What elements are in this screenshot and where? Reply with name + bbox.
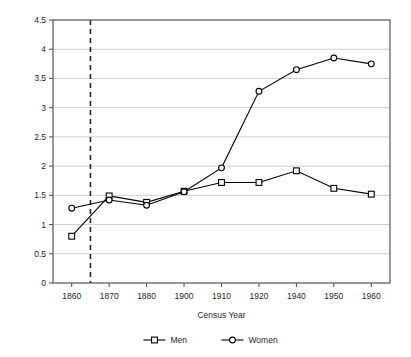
legend-marker [152, 337, 158, 343]
data-point-marker [331, 55, 337, 61]
chart-container: Ratio of Blacks to Whites 00.511.522.533… [0, 0, 411, 357]
data-point-marker [256, 88, 262, 94]
data-point-marker [368, 61, 374, 67]
y-axis-tick-label: 2 [41, 161, 46, 171]
data-point-marker [219, 165, 225, 171]
data-point-marker [106, 197, 112, 203]
y-axis-tick-label: 3.5 [34, 73, 46, 83]
y-axis-tick-label: 3 [41, 103, 46, 113]
x-axis-tick-label: 1880 [137, 291, 156, 301]
x-axis-tick-label: 1900 [175, 291, 194, 301]
legend-label: Women [249, 335, 278, 345]
data-point-marker [144, 202, 150, 208]
y-axis-tick-label: 1 [41, 220, 46, 230]
y-axis-tick-label: 1.5 [34, 190, 46, 200]
data-point-marker [368, 191, 374, 197]
data-point-marker [69, 233, 75, 239]
x-axis-tick-label: 1870 [100, 291, 119, 301]
x-axis-tick-label: 1940 [287, 291, 306, 301]
x-axis-title: Census Year [197, 310, 245, 320]
x-axis-tick-label: 1910 [212, 291, 231, 301]
legend-label: Men [171, 335, 188, 345]
data-point-marker [293, 168, 299, 174]
legend-marker [230, 337, 236, 343]
y-axis-tick-label: 0 [41, 278, 46, 288]
x-axis-tick-label: 1920 [249, 291, 268, 301]
data-point-marker [331, 185, 337, 191]
y-axis-tick-label: 2.5 [34, 132, 46, 142]
data-point-marker [181, 189, 187, 195]
data-point-marker [219, 180, 225, 186]
y-axis-tick-label: 4 [41, 44, 46, 54]
x-axis-tick-label: 1960 [362, 291, 381, 301]
data-point-marker [69, 205, 75, 211]
line-chart-svg: 00.511.522.533.544.5 1860187018801900191… [0, 0, 411, 357]
data-point-marker [293, 67, 299, 73]
x-axis-tick-label: 1950 [324, 291, 343, 301]
y-axis-tick-label: 4.5 [34, 15, 46, 25]
data-point-marker [256, 180, 262, 186]
y-axis-tick-label: 0.5 [34, 249, 46, 259]
x-axis-tick-label: 1860 [62, 291, 81, 301]
